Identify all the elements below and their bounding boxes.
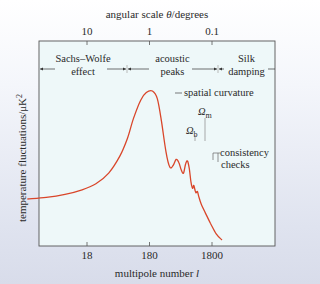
bottom-axis: 181801800 multipole number l	[82, 242, 224, 279]
x-axis-title: multipole number l	[115, 267, 199, 279]
cmb-power-spectrum-chart: angular scale θ/degrees 1010.1 181801800…	[0, 0, 297, 284]
top-tick-label: 1	[147, 25, 153, 37]
region-label-line2: peaks	[161, 66, 185, 77]
annotation-spatial-curvature: spatial curvature	[184, 87, 254, 98]
top-axis-title: angular scale θ/degrees	[106, 8, 209, 20]
region-label-line1: acoustic	[155, 53, 190, 64]
top-tick-label: 0.1	[205, 25, 219, 37]
top-tick-label: 10	[82, 25, 94, 37]
x-tick-label: 18	[82, 249, 94, 261]
x-tick-label: 1800	[201, 249, 224, 261]
y-axis-title: temperature fluctuations/μK2	[15, 94, 28, 222]
region-label-line2: damping	[228, 66, 265, 77]
top-axis: angular scale θ/degrees 1010.1	[82, 8, 219, 45]
annotation-consistency: consistency	[220, 147, 270, 158]
region-label-line1: Silk	[238, 53, 256, 64]
x-tick-label: 180	[141, 249, 158, 261]
annotation-checks: checks	[221, 159, 250, 170]
region-label-line1: Sachs–Wolfe	[55, 53, 110, 64]
region-label-line2: effect	[71, 66, 95, 77]
